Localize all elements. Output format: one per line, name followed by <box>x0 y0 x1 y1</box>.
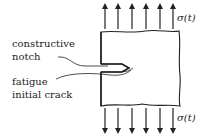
label-stress-top: σ(t) <box>177 12 196 23</box>
fatigue-plate-diagram: constructive notch fatigue initial crack… <box>0 0 212 138</box>
top-stress-arrows <box>105 6 173 29</box>
constructive-notch <box>101 64 129 72</box>
label-fatigue: fatigue <box>12 76 48 87</box>
label-constructive: constructive <box>12 38 75 49</box>
bottom-stress-arrows <box>105 108 173 131</box>
label-initial-crack: initial crack <box>12 89 73 100</box>
label-stress-bottom: σ(t) <box>177 112 196 123</box>
label-notch: notch <box>12 51 41 62</box>
plate-outline <box>101 30 180 106</box>
